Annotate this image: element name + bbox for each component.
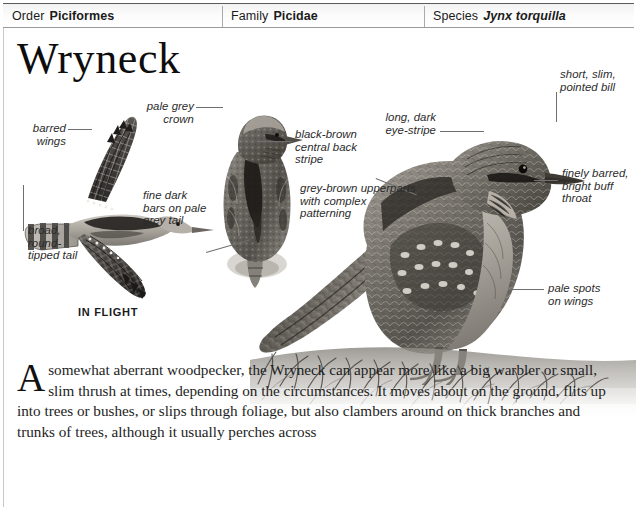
taxonomy-divider-1 (222, 6, 223, 27)
annotation-grey-brown-upperparts: grey-brown upperparts with complex patte… (300, 182, 432, 220)
annotation-broad-round-tipped-tail: broad, round- tipped tail (28, 224, 104, 262)
annotation-short-slim-pointed-bill: short, slim, pointed bill (560, 68, 634, 93)
taxonomy-family-key: Family (231, 9, 268, 23)
drop-cap: A (17, 360, 48, 394)
leader-broad-tail (23, 185, 24, 231)
page-left-rule (3, 28, 4, 507)
taxonomy-order-value: Piciformes (49, 9, 114, 23)
annotation-finely-barred-bright-buff-throat: finely barred, bright buff throat (562, 167, 636, 205)
taxonomy-divider-2 (424, 6, 425, 27)
taxonomy-family: Family Picidae (231, 4, 318, 27)
taxonomy-header-bar: Order Piciformes Family Picidae Species … (3, 3, 634, 28)
taxonomy-family-value: Picidae (273, 9, 317, 23)
annotation-barred-wings: barred wings (18, 122, 66, 147)
body-paragraph-text: somewhat aberrant woodpecker, the Wrynec… (17, 361, 606, 440)
annotation-pale-grey-crown: pale grey crown (118, 100, 194, 125)
taxonomy-order-key: Order (12, 9, 44, 23)
leader-pale-grey-crown (196, 107, 223, 108)
body-paragraph: Asomewhat aberrant woodpecker, the Wryne… (17, 360, 617, 442)
taxonomy-order: Order Piciformes (12, 4, 114, 27)
wryneck-perched-side-illustration (255, 95, 600, 385)
annotation-long-dark-eye-stripe: long, dark eye-stripe (360, 111, 436, 136)
in-flight-caption: IN FLIGHT (78, 306, 138, 318)
taxonomy-species-key: Species (433, 9, 478, 23)
leader-buff-throat (534, 180, 558, 181)
leader-barred-wings (68, 129, 92, 130)
leader-eye-stripe (440, 131, 484, 132)
taxonomy-species-value: Jynx torquilla (483, 9, 566, 23)
taxonomy-species: Species Jynx torquilla (433, 4, 566, 27)
page-title: Wryneck (17, 37, 181, 81)
annotation-fine-dark-bars-on-pale-grey-tail: fine dark bars on pale grey tail (143, 189, 229, 227)
field-guide-page: Order Piciformes Family Picidae Species … (0, 0, 636, 507)
leader-pointed-bill (556, 92, 557, 122)
leader-pale-spots (508, 289, 544, 290)
annotation-pale-spots-on-wings: pale spots on wings (548, 282, 628, 307)
